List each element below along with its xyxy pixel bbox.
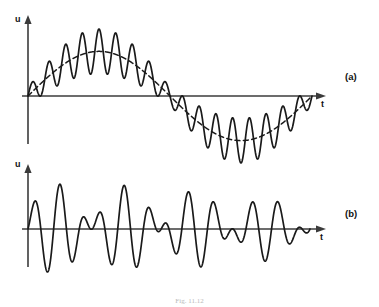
panel-a-vertical-axis-arrow [24,15,31,24]
panel-b-signal-trace [28,184,310,272]
figure-caption: Fig. 11.12 [0,297,379,306]
modulation-waveform-figure: u t (a) u t (b) Fig. 11.12 [0,0,379,307]
panel-a-tag: (a) [345,72,357,82]
panel-b-y-axis-label: u [15,160,21,169]
panel-b-vertical-axis-arrow [24,164,31,173]
panel-b-tag: (b) [345,209,357,219]
panel-a-am-waveform [0,8,340,158]
panel-a-plot [0,8,340,158]
panel-a-x-axis-label: t [321,100,324,109]
panel-b-plot [0,155,340,275]
panel-b-dsbsc-waveform [0,155,340,275]
panel-b-x-axis-label: t [320,233,323,242]
panel-a-y-axis-label: u [15,15,21,24]
